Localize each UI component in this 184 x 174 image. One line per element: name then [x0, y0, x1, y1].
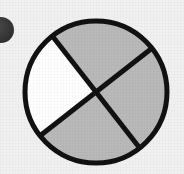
corner-dot-shape — [0, 17, 14, 43]
corner-dot — [0, 17, 14, 43]
fraction-diagram — [0, 0, 184, 174]
image-canvas — [0, 0, 184, 174]
